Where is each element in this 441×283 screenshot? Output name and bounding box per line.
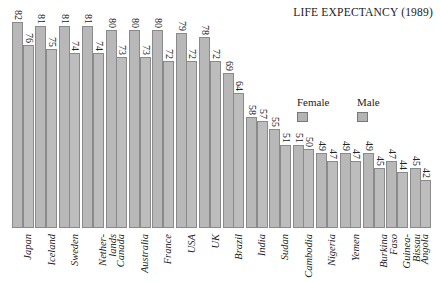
bar-female — [316, 153, 327, 228]
data-label: 73 — [141, 45, 151, 55]
category-label: Yemen — [351, 234, 361, 261]
bar-male — [186, 61, 197, 228]
bar-male — [93, 53, 104, 228]
data-label: 80 — [107, 18, 117, 28]
bar-female — [199, 37, 210, 228]
bar-male — [350, 161, 361, 228]
data-label: 79 — [177, 21, 187, 31]
bar-male — [397, 172, 408, 228]
bar-female — [293, 145, 304, 228]
bar-male — [140, 57, 151, 228]
data-label: 47 — [387, 149, 397, 159]
category-label: Australia — [140, 234, 150, 273]
data-label: 50 — [304, 137, 314, 147]
category-label: Brazil — [234, 234, 244, 260]
category-label: Iceland — [46, 234, 56, 266]
bar-female — [386, 161, 397, 228]
data-label: 72 — [187, 49, 197, 59]
bar-male — [327, 161, 338, 228]
data-label: 69 — [224, 61, 234, 71]
legend-male-swatch — [357, 112, 368, 122]
category-label: UK — [210, 234, 220, 249]
data-label: 78 — [200, 25, 210, 35]
bar-female — [82, 26, 93, 228]
data-label: 44 — [398, 160, 408, 170]
data-label: 49 — [317, 141, 327, 151]
data-label: 57 — [258, 109, 268, 119]
data-label: 75 — [47, 37, 57, 47]
data-label: 81 — [60, 14, 70, 24]
legend-male-label: Male — [357, 96, 380, 108]
bar-male — [303, 149, 314, 228]
data-label: 76 — [24, 33, 34, 43]
bar-female — [152, 30, 163, 229]
data-label: 58 — [247, 105, 257, 115]
data-label: 72 — [211, 49, 221, 59]
category-label: France — [163, 234, 173, 264]
bar-female — [223, 73, 234, 228]
data-label: 82 — [13, 10, 23, 20]
data-label: 74 — [94, 41, 104, 51]
data-label: 47 — [328, 149, 338, 159]
category-label: Cambodia — [304, 234, 314, 278]
bar-female — [269, 129, 280, 228]
bar-male — [116, 57, 127, 228]
data-label: 81 — [83, 14, 93, 24]
legend-female-label: Female — [297, 96, 329, 108]
bar-female — [246, 117, 257, 228]
category-label: Angola — [421, 234, 431, 264]
data-label: 80 — [130, 18, 140, 28]
data-label: 49 — [364, 141, 374, 151]
life-expectancy-chart: LIFE EXPECTANCY (1989) Female Male 82768… — [0, 0, 441, 283]
bar-female — [106, 30, 117, 229]
bar-female — [340, 153, 351, 228]
category-label: Sweden — [70, 234, 80, 266]
data-label: 73 — [117, 45, 127, 55]
data-label: 45 — [411, 156, 421, 166]
data-label: 80 — [153, 18, 163, 28]
legend-female-swatch — [297, 112, 308, 122]
category-label: Canada — [117, 234, 127, 267]
category-label: India — [257, 234, 267, 256]
data-label: 64 — [234, 81, 244, 91]
category-label: Japan — [23, 234, 33, 260]
data-label: 74 — [70, 41, 80, 51]
bar-female — [176, 33, 187, 228]
bar-male — [23, 45, 34, 228]
bar-female — [12, 22, 23, 228]
bar-male — [233, 93, 244, 228]
bar-female — [129, 30, 140, 229]
data-label: 51 — [294, 133, 304, 143]
bar-male — [46, 49, 57, 228]
bar-male — [69, 53, 80, 228]
data-label: 72 — [164, 49, 174, 59]
bar-female — [363, 153, 374, 228]
bar-male — [280, 145, 291, 228]
bar-male — [210, 61, 221, 228]
data-label: 51 — [281, 133, 291, 143]
bar-male — [163, 61, 174, 228]
data-label: 81 — [36, 14, 46, 24]
data-label: 49 — [341, 141, 351, 151]
data-label: 47 — [351, 149, 361, 159]
data-label: 55 — [270, 117, 280, 127]
bar-male — [374, 168, 385, 228]
bar-female — [35, 26, 46, 228]
category-label: Sudan — [280, 234, 290, 260]
bar-male — [257, 121, 268, 228]
category-label: Burkina Faso — [379, 234, 399, 268]
chart-title: LIFE EXPECTANCY (1989) — [293, 6, 433, 18]
bar-female — [410, 168, 421, 228]
data-label: 42 — [421, 168, 431, 178]
category-label: USA — [187, 234, 197, 253]
bar-female — [59, 26, 70, 228]
bar-male — [420, 180, 431, 228]
category-label: Nigeria — [327, 234, 337, 266]
data-label: 45 — [375, 156, 385, 166]
